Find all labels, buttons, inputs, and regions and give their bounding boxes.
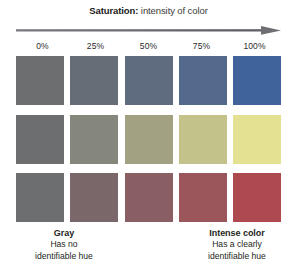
tick-label-0: 0% (16, 39, 69, 54)
swatch-red-75 (179, 173, 227, 222)
caption-gray: Gray Has no identifiable hue (8, 228, 120, 262)
tick-label-row: 0% 25% 50% 75% 100% (16, 39, 281, 54)
caption-intense-heading: Intense color (181, 228, 293, 239)
swatch-red-100 (233, 173, 281, 222)
swatch-grid (16, 56, 281, 222)
figure-title-sub: intensity of color (138, 5, 207, 16)
caption-intense-line-2: identifiable hue (181, 251, 293, 262)
swatch-yellowgreen-0 (16, 115, 64, 164)
swatch-blue-25 (70, 56, 118, 105)
swatch-yellowgreen-50 (125, 115, 173, 164)
swatch-blue-50 (125, 56, 173, 105)
tick-label-75: 75% (175, 39, 228, 54)
swatch-row-yellow-green (16, 115, 281, 164)
swatch-row-blue (16, 56, 281, 105)
saturation-figure: Saturation: intensity of color 0% 25% 50… (0, 0, 297, 272)
swatch-yellowgreen-100 (233, 115, 281, 164)
swatch-row-red (16, 173, 281, 222)
caption-gray-line-1: Has no (8, 239, 120, 250)
swatch-red-50 (125, 173, 173, 222)
caption-gray-line-2: identifiable hue (8, 251, 120, 262)
swatch-yellowgreen-75 (179, 115, 227, 164)
swatch-blue-0 (16, 56, 64, 105)
tick-label-25: 25% (69, 39, 122, 54)
caption-intense-line-1: Has a clearly (181, 239, 293, 250)
swatch-blue-75 (179, 56, 227, 105)
caption-row: Gray Has no identifiable hue Intense col… (0, 228, 297, 272)
swatch-blue-100 (233, 56, 281, 105)
figure-title: Saturation: intensity of color (0, 5, 297, 17)
swatch-red-0 (16, 173, 64, 222)
tick-label-100: 100% (228, 39, 281, 54)
swatch-yellowgreen-25 (70, 115, 118, 164)
swatch-red-25 (70, 173, 118, 222)
arrow-right-icon (16, 24, 281, 38)
caption-gray-heading: Gray (8, 228, 120, 239)
saturation-axis-arrow (16, 24, 281, 38)
figure-title-lead: Saturation: (89, 5, 138, 16)
caption-intense-color: Intense color Has a clearly identifiable… (181, 228, 293, 262)
tick-label-50: 50% (122, 39, 175, 54)
